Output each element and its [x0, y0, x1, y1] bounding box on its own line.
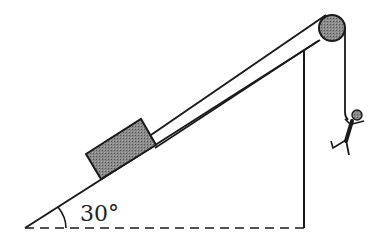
- block: [86, 119, 156, 179]
- pulley: [319, 15, 345, 41]
- rope-lower-edge: [155, 41, 318, 148]
- rope-upper-edge: [148, 15, 326, 137]
- hanging-rope: [345, 28, 348, 120]
- person-head: [352, 110, 362, 120]
- angle-arc: [58, 207, 66, 228]
- incline-pulley-diagram: 30°: [0, 0, 382, 244]
- angle-label: 30°: [80, 201, 119, 226]
- hanging-person: [331, 110, 364, 155]
- person-leg-left: [331, 140, 346, 148]
